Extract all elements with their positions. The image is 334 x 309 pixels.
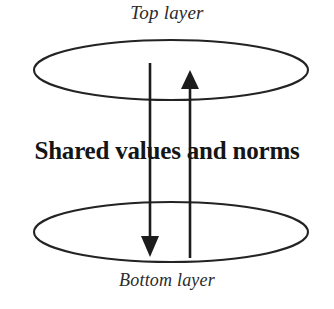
top-layer-ellipse bbox=[34, 40, 308, 100]
upward-arrow-head bbox=[181, 70, 199, 89]
bottom-layer-ellipse bbox=[34, 202, 308, 262]
diagram-canvas: Top layer Shared values and norms Bottom… bbox=[0, 0, 334, 309]
shared-values-and-norms-text: Shared values and norms bbox=[0, 137, 334, 165]
bottom-layer-label: Bottom layer bbox=[0, 270, 334, 291]
downward-arrow-head bbox=[141, 236, 159, 257]
